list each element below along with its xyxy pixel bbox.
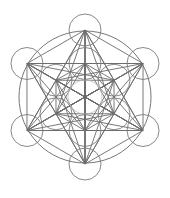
connecting-line — [85, 131, 143, 165]
connecting-line — [27, 30, 85, 64]
connecting-line — [85, 30, 143, 64]
connecting-lines — [27, 30, 143, 164]
connecting-line — [27, 131, 85, 165]
metatrons-cube-diagram — [0, 0, 170, 198]
